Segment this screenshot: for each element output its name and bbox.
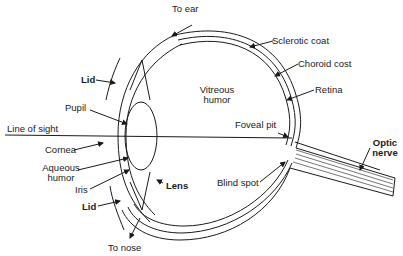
label-retina: Retina — [315, 85, 342, 95]
sclera-outline — [122, 31, 395, 240]
label-aqueous-humor: Aqueous humor — [42, 163, 80, 183]
label-line-of-sight: Line of sight — [7, 124, 58, 134]
label-lid-bottom: Lid — [82, 202, 96, 212]
eye-diagram — [0, 0, 403, 256]
label-iris: Iris — [75, 185, 88, 195]
label-choroid-coat: Choroid cost — [298, 59, 351, 69]
label-vitreous-humor: Vitreous humor — [192, 85, 242, 105]
label-lens: Lens — [166, 181, 188, 191]
line-of-sight — [5, 135, 292, 138]
label-optic-nerve: Optic nerve — [370, 138, 400, 158]
label-cornea: Cornea — [45, 145, 76, 155]
label-sclerotic-coat: Sclerotic coat — [272, 36, 329, 46]
label-to-nose: To nose — [108, 243, 141, 253]
label-pupil: Pupil — [65, 103, 86, 113]
label-lid-top: Lid — [81, 75, 95, 85]
label-blind-spot: Blind spot — [217, 178, 259, 188]
label-foveal-pit: Foveal pit — [235, 120, 276, 130]
label-to-ear: To ear — [172, 4, 198, 14]
